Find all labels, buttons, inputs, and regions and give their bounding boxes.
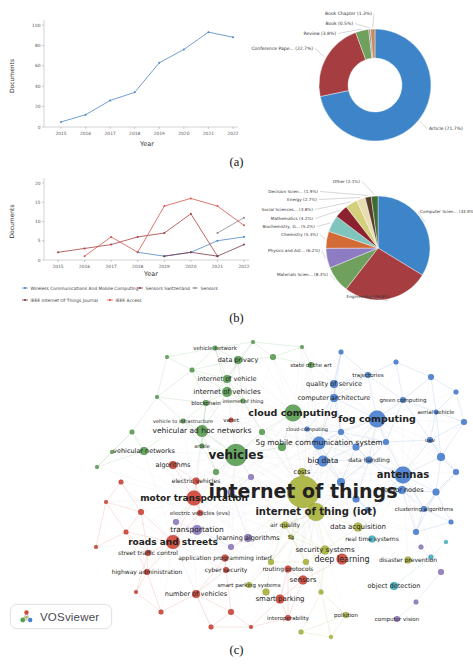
svg-text:state of the art: state of the art	[290, 362, 332, 368]
figure-page: 0204060801002015201620172018201920202021…	[0, 0, 473, 658]
svg-text:Sensors: Sensors	[201, 286, 219, 291]
svg-text:100: 100	[32, 23, 41, 28]
svg-text:Energy (2.7%): Energy (2.7%)	[287, 197, 317, 202]
caption-a: (a)	[0, 156, 473, 170]
svg-text:Chemistry (5.3%): Chemistry (5.3%)	[281, 232, 318, 237]
svg-text:2021: 2021	[203, 131, 214, 136]
svg-text:interoperability: interoperability	[267, 615, 310, 622]
svg-text:2017: 2017	[105, 131, 116, 136]
svg-text:sensors: sensors	[290, 576, 317, 584]
panel-a: 0204060801002015201620172018201920202021…	[0, 6, 473, 156]
documents-by-subject-pie: Computer Scien... (33.9%)Engineering (26…	[250, 170, 473, 312]
svg-text:2016: 2016	[80, 131, 91, 136]
svg-text:internet of thing: internet of thing	[223, 398, 264, 405]
svg-text:transportation: transportation	[170, 525, 224, 534]
svg-text:fog computing: fog computing	[338, 413, 416, 424]
svg-text:Year: Year	[139, 140, 154, 148]
svg-text:IEEE Access: IEEE Access	[116, 298, 143, 303]
svg-text:blockchain: blockchain	[191, 400, 221, 406]
documents-by-type-donut: Article (71.7%)Conference Pape... (22.7%…	[236, 6, 473, 156]
caption-c: (c)	[0, 644, 473, 658]
svg-text:vehicular ad hoc networks: vehicular ad hoc networks	[153, 426, 252, 435]
svg-text:vehicles: vehicles	[208, 448, 263, 462]
svg-text:Mathematics (4.2%): Mathematics (4.2%)	[271, 216, 314, 221]
svg-text:roads and streets: roads and streets	[128, 537, 218, 547]
svg-text:Review (3.8%): Review (3.8%)	[304, 31, 337, 36]
svg-text:Documents: Documents	[8, 59, 15, 93]
svg-text:internet of vehicle: internet of vehicle	[197, 375, 256, 383]
svg-text:computer architecture: computer architecture	[298, 394, 371, 402]
svg-text:Physics and Ast... (6.2%): Physics and Ast... (6.2%)	[268, 248, 320, 253]
svg-text:vehicular networks: vehicular networks	[113, 447, 175, 455]
svg-text:Sensors Switzerland: Sensors Switzerland	[146, 286, 191, 291]
svg-text:Conference Pape... (22.7%): Conference Pape... (22.7%)	[251, 46, 313, 51]
svg-text:2015: 2015	[55, 131, 66, 136]
svg-text:2018: 2018	[129, 131, 140, 136]
svg-text:real time systems: real time systems	[345, 535, 399, 543]
svg-text:routing protocols: routing protocols	[263, 565, 314, 573]
svg-text:cyber security: cyber security	[205, 566, 248, 574]
svg-text:10: 10	[35, 219, 41, 224]
svg-text:air quality: air quality	[270, 521, 301, 529]
svg-text:2016: 2016	[79, 264, 90, 269]
svg-text:application programming interf: application programming interf	[178, 554, 273, 562]
svg-text:data acquisition: data acquisition	[330, 523, 386, 531]
svg-text:costs: costs	[294, 468, 311, 476]
svg-text:20: 20	[35, 104, 41, 109]
svg-text:2017: 2017	[106, 264, 117, 269]
svg-text:data privacy: data privacy	[218, 356, 259, 364]
svg-text:60: 60	[35, 63, 41, 68]
svg-text:object detection: object detection	[368, 582, 421, 590]
svg-text:cloud computing: cloud computing	[248, 407, 337, 418]
svg-text:uav: uav	[425, 437, 436, 443]
panel-b: 0510152020152016201720182019202020212022…	[0, 170, 473, 312]
svg-text:40: 40	[35, 84, 41, 89]
svg-text:Documents: Documents	[8, 204, 15, 238]
svg-text:algorithms: algorithms	[156, 461, 191, 469]
svg-text:highway administration: highway administration	[112, 568, 183, 576]
svg-text:Year: Year	[143, 270, 158, 278]
svg-text:0: 0	[38, 125, 41, 130]
documents-per-year-chart: 0204060801002015201620172018201920202021…	[0, 6, 236, 156]
svg-text:Biochemistry, G... (5.2%): Biochemistry, G... (5.2%)	[262, 224, 315, 229]
svg-text:Wireless Communications And Mo: Wireless Communications And Mobile Compu…	[31, 286, 139, 291]
svg-text:20: 20	[35, 181, 41, 186]
svg-text:number of vehicles: number of vehicles	[165, 590, 228, 598]
svg-text:2020: 2020	[185, 264, 196, 269]
svg-text:disaster prevention: disaster prevention	[379, 556, 437, 564]
svg-text:quality of service: quality of service	[306, 380, 362, 388]
svg-text:data handling: data handling	[348, 456, 390, 464]
svg-text:Other (2.1%): Other (2.1%)	[333, 179, 360, 184]
svg-text:big data: big data	[308, 456, 339, 465]
svg-text:80: 80	[35, 43, 41, 48]
documents-by-source-chart: 0510152020152016201720182019202020212022…	[0, 170, 250, 312]
svg-text:internet of thing (iot): internet of thing (iot)	[255, 506, 376, 517]
svg-text:5: 5	[38, 238, 41, 243]
svg-text:aerial vehicle: aerial vehicle	[418, 409, 455, 415]
svg-text:smart parking: smart parking	[255, 595, 304, 603]
svg-text:5g: 5g	[288, 534, 294, 541]
keyword-network-visualization: vehicle networkdata privacystate of the …	[0, 326, 473, 644]
svg-text:trajectories: trajectories	[352, 372, 383, 379]
svg-text:2015: 2015	[52, 264, 63, 269]
svg-text:computer vision: computer vision	[375, 616, 420, 623]
svg-text:15: 15	[35, 200, 41, 205]
svg-text:internet of things: internet of things	[209, 480, 398, 502]
svg-text:2022: 2022	[238, 264, 249, 269]
svg-text:street traffic control: street traffic control	[118, 549, 178, 556]
svg-text:Engineering (26.9%): Engineering (26.9%)	[346, 294, 389, 299]
svg-text:2019: 2019	[154, 131, 165, 136]
svg-text:vehicle network: vehicle network	[193, 345, 237, 351]
svg-text:learning algorithms: learning algorithms	[216, 534, 280, 542]
svg-text:2019: 2019	[159, 264, 170, 269]
svg-text:green computing: green computing	[379, 397, 426, 404]
svg-text:vanet: vanet	[223, 417, 239, 423]
svg-text:Book (0.5%): Book (0.5%)	[325, 21, 353, 26]
caption-b: (b)	[0, 312, 473, 326]
svg-text:Article (71.7%): Article (71.7%)	[429, 126, 463, 131]
svg-text:5g mobile communication system: 5g mobile communication system	[255, 438, 382, 447]
svg-text:pollution: pollution	[334, 612, 358, 619]
svg-text:internet of vehicles: internet of vehicles	[193, 388, 261, 396]
svg-text:smart parking systems: smart parking systems	[217, 582, 280, 589]
svg-text:Decision Scien... (1.9%): Decision Scien... (1.9%)	[268, 189, 318, 194]
